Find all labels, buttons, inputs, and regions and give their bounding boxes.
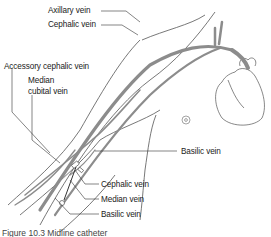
basilic-vein-path	[55, 48, 220, 215]
label-cephalic-vein-lower: Cephalic vein	[101, 180, 149, 189]
leader-lines	[12, 11, 177, 214]
label-basilic-vein-upper: Basilic vein	[181, 147, 221, 156]
label-axillary-vein: Axillary vein	[48, 6, 90, 15]
nipple-icon	[182, 116, 190, 124]
label-cephalic-vein-upper: Cephalic vein	[48, 20, 96, 29]
figure-caption: Figure 10.3 Midline catheter	[2, 228, 107, 237]
label-basilic-vein-lower: Basilic vein	[101, 210, 141, 219]
midline-catheter	[60, 161, 84, 206]
label-median-vein: Median vein	[101, 195, 144, 204]
label-accessory-cephalic-vein: Accessory cephalic vein	[4, 62, 89, 71]
heart-icon	[216, 58, 265, 125]
label-median-cubital-vein-line2: cubital vein	[28, 87, 68, 96]
label-median-cubital-vein-line1: Median	[28, 76, 54, 85]
